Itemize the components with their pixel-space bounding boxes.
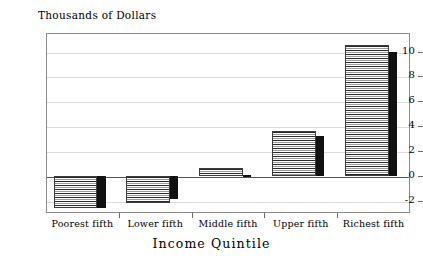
x-axis-label-richest-fifth: Richest fifth bbox=[337, 218, 410, 229]
bar-series-solid bbox=[316, 136, 324, 176]
bar-series-solid bbox=[97, 176, 105, 208]
y-axis-title: Thousands of Dollars bbox=[38, 9, 156, 21]
bar-series-striped bbox=[54, 176, 98, 208]
bar-series-striped bbox=[199, 168, 243, 175]
y-tick-mark bbox=[418, 76, 423, 77]
y-tick-mark bbox=[418, 201, 423, 202]
bar-series-solid bbox=[170, 176, 178, 200]
x-axis-title: Income Quintile bbox=[0, 236, 423, 251]
x-axis-label-middle-fifth: Middle fifth bbox=[192, 218, 265, 229]
bar-group bbox=[264, 33, 337, 213]
chart-container: Thousands of Dollars 1086420-2 Poorest f… bbox=[0, 0, 423, 260]
bar-series-striped bbox=[126, 176, 170, 203]
x-axis-label-lower-fifth: Lower fifth bbox=[119, 218, 192, 229]
bar-group bbox=[46, 33, 119, 213]
bar-series-striped bbox=[345, 45, 389, 175]
bar-group bbox=[192, 33, 265, 213]
x-axis-label-poorest-fifth: Poorest fifth bbox=[46, 218, 119, 229]
y-tick-mark bbox=[418, 52, 423, 53]
y-tick-mark bbox=[418, 101, 423, 102]
bar-series-solid bbox=[389, 52, 397, 176]
bars-layer bbox=[46, 33, 410, 213]
y-tick-mark bbox=[418, 176, 423, 177]
bar-group bbox=[337, 33, 410, 213]
y-tick-mark bbox=[418, 126, 423, 127]
bar-group bbox=[119, 33, 192, 213]
bar-series-solid bbox=[243, 175, 251, 177]
y-tick-mark bbox=[418, 151, 423, 152]
bar-series-striped bbox=[272, 131, 316, 176]
x-axis-label-upper-fifth: Upper fifth bbox=[264, 218, 337, 229]
